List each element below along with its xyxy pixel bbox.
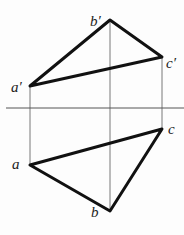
label-b-prime: b′ xyxy=(90,13,102,29)
front-view-triangle xyxy=(30,20,162,86)
projection-diagram: a′ b′ c′ a b c xyxy=(0,0,184,235)
label-b: b xyxy=(91,204,99,220)
label-c-prime: c′ xyxy=(166,55,177,71)
label-c: c xyxy=(168,121,175,137)
label-a: a xyxy=(12,156,20,172)
diagram-svg: a′ b′ c′ a b c xyxy=(0,0,184,235)
top-view-triangle xyxy=(30,129,162,211)
label-a-prime: a′ xyxy=(11,79,23,95)
